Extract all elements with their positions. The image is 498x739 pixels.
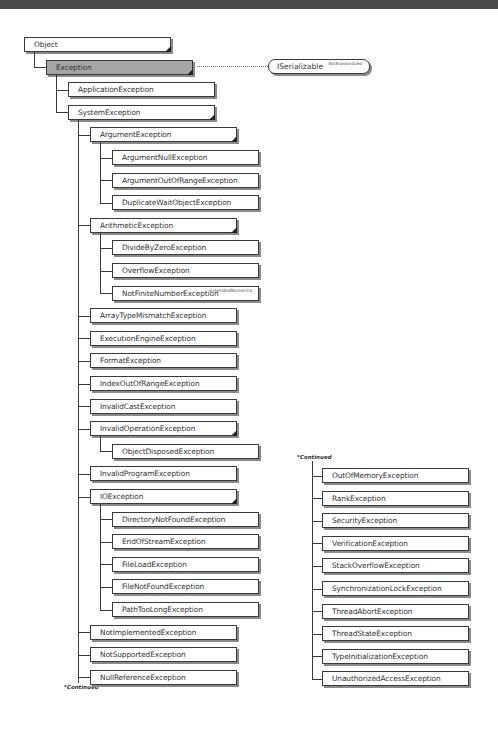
class-name: EndOfStreamException [122,537,206,546]
class-node-duplicate-wait-object-exception: DuplicateWaitObjectException [112,195,259,210]
exception-hierarchy-diagram: ISerializable NotStandardized *Continued… [0,0,498,739]
connector-line [78,406,90,407]
class-name: DuplicateWaitObjectException [122,198,231,207]
class-node-rank-exception: RankException [322,491,469,506]
class-name: ArgumentException [100,130,171,139]
connector-line [100,610,112,611]
connector-line [100,564,112,565]
class-name: IndexOutOfRangeException [100,379,200,388]
class-node-divide-by-zero-exception: DivideByZeroException [112,240,259,255]
class-name: ArrayTypeMismatchException [100,311,206,320]
class-node-file-not-found-exception: FileNotFoundException [112,579,259,594]
class-name: ExecutionEngineException [100,334,196,343]
class-node-end-of-stream-exception: EndOfStreamException [112,534,259,549]
class-name: ThreadAbortException [332,607,412,616]
connector-line [78,316,90,317]
class-name: DivideByZeroException [122,243,206,252]
class-node-exception: Exception [46,60,193,75]
connector-line [100,233,101,294]
class-node-format-exception: FormatException [90,353,237,368]
class-node-not-supported-exception: NotSupportedException [90,647,237,662]
connector-line [100,158,112,159]
class-name: ArithmeticException [100,221,173,230]
interface-connector [197,66,268,67]
connector-line [100,203,112,204]
continued-trunk-line [78,120,79,683]
class-name: SynchronizationLockException [332,584,442,593]
class-name: Exception [56,63,91,72]
class-name: Object [34,40,57,49]
class-name: StackOverflowException [332,561,420,570]
class-node-application-exception: ApplicationException [68,82,215,97]
connector-line [78,384,90,385]
class-node-file-load-exception: FileLoadException [112,557,259,572]
class-node-unauthorized-access-exception: UnauthorizedAccessException [322,671,469,686]
continued-label-right: *Continued [297,454,332,460]
interface-tag: NotStandardized [329,61,363,66]
connector-line [78,225,90,226]
class-node-not-finite-number-exception: NotFiniteNumberExceptionExtendedNumerics [112,286,259,301]
class-node-invalid-program-exception: InvalidProgramException [90,466,237,481]
class-name: RankException [332,494,386,503]
class-name: NotFiniteNumberException [122,289,219,298]
class-node-array-type-mismatch-exception: ArrayTypeMismatchException [90,308,237,323]
class-node-security-exception: SecurityException [322,513,469,528]
connector-line [100,504,101,611]
class-name: TypeInitializationException [332,652,428,661]
class-name: SystemException [78,108,140,117]
connector-line [78,474,90,475]
class-node-ioexception: IOException [90,489,237,504]
class-node-directory-not-found-exception: DirectoryNotFoundException [112,512,259,527]
iserializable-interface: ISerializable NotStandardized [268,59,370,74]
connector-line [56,112,68,113]
class-node-invalid-operation-exception: InvalidOperationException [90,421,237,436]
class-name: DirectoryNotFoundException [122,515,225,524]
connector-line [78,429,90,430]
connector-line [312,543,322,544]
class-node-arithmetic-exception: ArithmeticException [90,218,237,233]
connector-line [312,521,322,522]
class-node-execution-engine-exception: ExecutionEngineException [90,331,237,346]
class-node-object-disposed-exception: ObjectDisposedException [112,444,259,459]
class-name: FormatException [100,356,161,365]
class-name: InvalidCastException [100,402,175,411]
class-name: IOException [100,492,143,501]
class-node-verification-exception: VerificationException [322,536,469,551]
connector-line [56,90,68,91]
connector-line [100,436,101,452]
class-name: OutOfMemoryException [332,471,418,480]
connector-line [78,361,90,362]
connector-line [78,632,90,633]
class-name: ApplicationException [78,85,154,94]
connector-line [312,498,322,499]
continued-trunk-line [312,461,313,680]
connector-line [100,542,112,543]
connector-line [312,476,322,477]
connector-line [100,519,112,520]
class-node-argument-null-exception: ArgumentNullException [112,150,259,165]
interface-label: ISerializable [277,62,323,71]
connector-line [100,180,112,181]
class-node-index-out-of-range-exception: IndexOutOfRangeException [90,376,237,391]
connector-line [312,566,322,567]
class-name: UnauthorizedAccessException [332,674,441,683]
class-node-type-initialization-exception: TypeInitializationException [322,649,469,664]
connector-line [100,142,101,204]
class-name: SecurityException [332,516,397,525]
connector-line [312,611,322,612]
class-node-thread-abort-exception: ThreadAbortException [322,604,469,619]
class-name: ArgumentOutOfRangeException [122,176,238,185]
class-node-thread-state-exception: ThreadStateException [322,626,469,641]
class-node-path-too-long-exception: PathTooLongException [112,602,259,617]
connector-line [312,589,322,590]
class-name: PathTooLongException [122,605,203,614]
class-node-out-of-memory-exception: OutOfMemoryException [322,468,469,483]
class-node-argument-out-of-range-exception: ArgumentOutOfRangeException [112,173,259,188]
class-name: NotImplementedException [100,628,196,637]
connector-line [78,135,90,136]
class-name: ThreadStateException [332,629,412,638]
connector-line [312,634,322,635]
connector-line [78,677,90,678]
class-node-null-reference-exception: NullReferenceException [90,670,237,685]
class-node-object: Object [24,37,171,52]
